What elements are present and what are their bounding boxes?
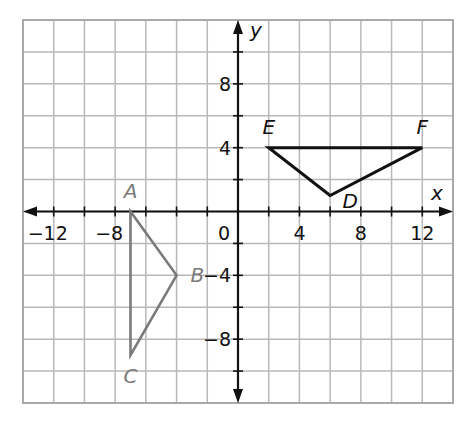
axes xyxy=(23,20,453,403)
y-tick-label: 4 xyxy=(219,137,231,159)
x-tick-label: 4 xyxy=(293,222,305,244)
y-tick-label: 8 xyxy=(219,73,231,95)
x-tick-label: −8 xyxy=(95,222,123,244)
y-axis-down-arrow-icon xyxy=(233,389,243,403)
x-tick-label: −12 xyxy=(28,222,68,244)
vertex-label-a: A xyxy=(122,179,138,203)
x-axis-left-arrow-icon xyxy=(23,207,37,217)
x-tick-label: 12 xyxy=(410,222,434,244)
vertex-label-b: B xyxy=(191,263,205,287)
vertex-label-f: F xyxy=(417,115,429,139)
vertex-label-d: D xyxy=(342,189,357,213)
labels: −12−80481284−4−8yxABCDEF xyxy=(28,18,443,388)
vertex-label-c: C xyxy=(124,364,138,388)
y-tick-label: −8 xyxy=(203,328,231,350)
coordinate-plane: −12−80481284−4−8yxABCDEF xyxy=(0,0,472,430)
x-axis-right-arrow-icon xyxy=(439,207,453,217)
triangle-abc xyxy=(131,212,177,356)
x-axis-label: x xyxy=(430,181,443,205)
y-axis-label: y xyxy=(249,18,263,42)
y-tick-label: −4 xyxy=(203,264,231,286)
triangles xyxy=(131,148,423,355)
x-tick-label: 0 xyxy=(218,222,230,244)
x-tick-label: 8 xyxy=(355,222,367,244)
vertex-label-e: E xyxy=(262,115,275,139)
y-axis-up-arrow-icon xyxy=(233,20,243,34)
